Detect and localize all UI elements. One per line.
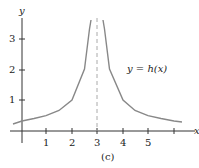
caption: (c): [101, 152, 114, 162]
x-tick-2: 2: [69, 138, 75, 148]
x-tick-5: 5: [145, 138, 151, 148]
y-tick-3: 3: [9, 34, 15, 44]
x-axis-label: x: [194, 126, 199, 136]
y-tick-1: 1: [9, 95, 15, 105]
chart-figure: y x 3 2 1 1 2 3 4 5 y = h(x) (c): [0, 0, 199, 168]
curve-label: y = h(x): [127, 64, 167, 74]
curve-left: [13, 20, 91, 124]
y-tick-2: 2: [9, 65, 15, 75]
y-axis-label: y: [19, 6, 25, 16]
x-tick-4: 4: [120, 138, 126, 148]
x-tick-1: 1: [43, 138, 49, 148]
x-tick-3: 3: [94, 138, 100, 148]
